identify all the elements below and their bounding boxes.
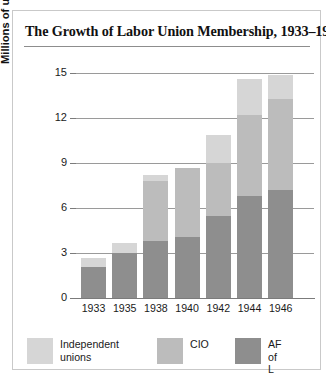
bar-segment-af-of-l <box>175 237 200 299</box>
legend-label-independent-unions: Independent unions <box>60 338 119 363</box>
y-axis-tick-label: 9 <box>43 156 67 168</box>
y-axis-tick <box>70 253 76 254</box>
legend-label-af-of-l: AF of L <box>268 338 282 376</box>
y-axis-title: Millions of union members <box>0 0 11 64</box>
bar-segment-independent-unions <box>112 243 137 254</box>
bar-group <box>81 63 106 308</box>
x-axis-tick-label: 1935 <box>108 302 142 314</box>
y-axis-tick <box>70 163 76 164</box>
x-axis-tick-label: 1933 <box>77 302 111 314</box>
y-axis-tick <box>70 298 76 299</box>
bar-segment-af-of-l <box>112 253 137 298</box>
legend-label-cio: CIO <box>190 338 209 351</box>
bar-segment-af-of-l <box>268 190 293 298</box>
bar-group <box>112 63 137 308</box>
bar-segment-independent-unions <box>143 175 168 181</box>
plot-inner <box>76 63 314 308</box>
legend-swatch-af-of-l <box>235 338 261 364</box>
y-axis-tick-label: 12 <box>43 111 67 123</box>
bar-segment-cio <box>206 163 231 216</box>
bar-segment-cio <box>175 168 200 237</box>
bar-segment-independent-unions <box>237 79 262 115</box>
x-axis-tick-label: 1944 <box>233 302 267 314</box>
x-axis-tick-label: 1942 <box>201 302 235 314</box>
y-axis-tick-label: 6 <box>43 201 67 213</box>
title-divider <box>24 46 310 47</box>
y-axis-tick-label: 0 <box>43 291 67 303</box>
x-axis-tick-label: 1946 <box>264 302 298 314</box>
bar-group <box>268 63 293 308</box>
legend-swatch-independent-unions <box>27 338 53 364</box>
plot-area <box>76 63 314 308</box>
bar-group <box>237 63 262 308</box>
x-axis-tick-label: 1940 <box>170 302 204 314</box>
chart-legend: Independent unionsCIOAF of L <box>27 336 322 376</box>
figure-frame: The Growth of Labor Union Membership, 19… <box>12 10 321 370</box>
bar-segment-independent-unions <box>206 135 231 164</box>
page-title: The Growth of Labor Union Membership, 19… <box>25 23 317 40</box>
bar-group <box>143 63 168 308</box>
bar-segment-af-of-l <box>81 267 106 299</box>
bar-segment-cio <box>143 181 168 241</box>
bar-group <box>175 63 200 308</box>
bar-segment-independent-unions <box>81 258 106 267</box>
bar-segment-af-of-l <box>143 241 168 298</box>
legend-swatch-cio <box>157 338 183 364</box>
bar-segment-independent-unions <box>268 75 293 99</box>
bar-segment-af-of-l <box>237 196 262 298</box>
bar-group <box>206 63 231 308</box>
y-axis-tick-label: 15 <box>43 66 67 78</box>
y-axis-tick-label: 3 <box>43 246 67 258</box>
bar-segment-cio <box>237 115 262 196</box>
y-axis-tick <box>70 208 76 209</box>
y-axis-tick <box>70 73 76 74</box>
bar-segment-af-of-l <box>206 216 231 299</box>
bar-segment-cio <box>268 99 293 191</box>
x-axis-tick-label: 1938 <box>139 302 173 314</box>
y-axis-tick <box>70 118 76 119</box>
